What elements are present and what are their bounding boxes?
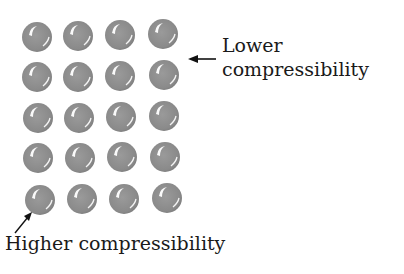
arrow-up-right-icon [15,212,32,233]
row-3 [23,101,179,133]
row-1 [22,19,178,52]
label-lower-compressibility: compressibility [222,57,369,81]
label-lower: Lower [222,33,283,57]
label-higher-compressibility: Higher compressibility [5,231,225,255]
row-4 [23,142,180,173]
arrow-left-icon [188,55,216,63]
row-2 [22,60,179,92]
row-5 [25,183,182,215]
